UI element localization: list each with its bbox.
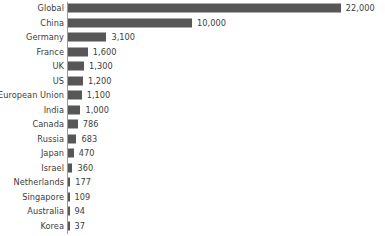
bar (68, 33, 106, 42)
value-label: 360 (77, 164, 93, 172)
bar (68, 91, 82, 100)
category-label: Russia (37, 135, 64, 143)
category-label: Australia (27, 207, 64, 215)
bar (68, 18, 192, 27)
value-label: 177 (75, 178, 91, 186)
bar-row: Russia683 (0, 132, 385, 147)
bar (68, 149, 74, 158)
bar-row: UK1,300 (0, 59, 385, 74)
bar-row: India1,000 (0, 103, 385, 118)
category-label: Japan (41, 149, 64, 157)
bar-row: Canada786 (0, 117, 385, 132)
value-label: 1,000 (85, 106, 109, 114)
category-label: Korea (41, 222, 64, 230)
value-label: 1,200 (88, 77, 112, 85)
category-label: Germany (26, 33, 64, 41)
bar (68, 62, 84, 71)
bar-row: European Union1,100 (0, 88, 385, 103)
bar-row: France1,600 (0, 45, 385, 60)
bar (68, 207, 70, 216)
bar-row: Australia94 (0, 204, 385, 219)
bar (68, 163, 72, 172)
category-label: European Union (0, 91, 64, 99)
value-label: 37 (75, 222, 86, 230)
bar-row: Netherlands177 (0, 175, 385, 190)
bar-chart: Global22,000China10,000Germany3,100Franc… (0, 0, 385, 236)
bar (68, 120, 78, 129)
category-label: Canada (33, 120, 64, 128)
category-label: France (36, 48, 64, 56)
category-label: UK (53, 62, 64, 70)
bar (68, 47, 88, 56)
bar-row: Germany3,100 (0, 30, 385, 45)
value-label: 786 (83, 120, 99, 128)
bar-row: China10,000 (0, 16, 385, 31)
bar (68, 76, 83, 85)
value-label: 1,600 (93, 48, 117, 56)
value-label: 94 (75, 207, 86, 215)
bar (68, 4, 341, 13)
bar-row: Korea37 (0, 219, 385, 234)
bar-row: Japan470 (0, 146, 385, 161)
value-label: 1,300 (89, 62, 113, 70)
category-label: Israel (41, 164, 64, 172)
category-label: Global (38, 4, 64, 12)
bar (68, 134, 76, 143)
bar-row: Singapore109 (0, 190, 385, 205)
value-label: 22,000 (346, 4, 375, 12)
value-label: 683 (81, 135, 97, 143)
bar-row: US1,200 (0, 74, 385, 89)
value-label: 10,000 (197, 19, 226, 27)
bar (68, 192, 70, 201)
bar (68, 105, 80, 114)
bar-row: Israel360 (0, 161, 385, 176)
plot-area: Global22,000China10,000Germany3,100Franc… (0, 0, 385, 236)
value-label: 470 (79, 149, 95, 157)
bar (68, 178, 70, 187)
category-label: India (44, 106, 64, 114)
value-label: 3,100 (111, 33, 135, 41)
value-label: 1,100 (87, 91, 111, 99)
value-label: 109 (75, 193, 91, 201)
category-label: China (40, 19, 64, 27)
category-label: Singapore (22, 193, 64, 201)
bar (68, 221, 70, 230)
bar-row: Global22,000 (0, 1, 385, 16)
category-label: Netherlands (14, 178, 64, 186)
category-label: US (53, 77, 64, 85)
